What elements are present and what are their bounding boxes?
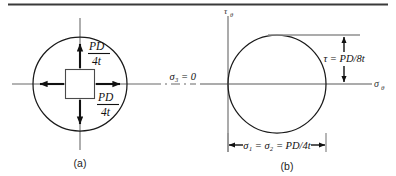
shear-dimension-label: τ = PD/8t: [323, 53, 365, 64]
stress-label-right-numerator: PD: [97, 91, 114, 103]
stress-element-square: [66, 70, 95, 99]
figure-svg: PD 4t PD 4t (a) τ θ: [0, 0, 396, 176]
sigma-axis-label-group: σ θ: [374, 78, 385, 92]
normal-dimension-label: σ₁ = σ₂ = PD/4t: [243, 140, 311, 151]
tau-axis-label: τ: [224, 6, 228, 16]
tau-axis-label-subscript: θ: [230, 11, 234, 18]
figure-container: PD 4t PD 4t (a) τ θ: [0, 0, 396, 176]
panel-a-caption: (a): [74, 157, 87, 169]
stress-label-top-numerator: PD: [88, 40, 105, 52]
sigma-axis-label-subscript: θ: [381, 84, 385, 92]
stress-label-top: PD 4t: [88, 40, 110, 67]
panel-a: PD 4t PD 4t (a): [12, 18, 196, 169]
stress-label-top-denominator: 4t: [92, 55, 102, 67]
panel-b: τ θ σ θ σ₃ = 0 τ = PD/8t σ₁ = σ₂ = PD/4t: [170, 6, 385, 172]
origin-stress-label: σ₃ = 0: [170, 71, 197, 82]
sigma-axis-label: σ: [374, 78, 380, 89]
panel-b-caption: (b): [281, 160, 294, 172]
stress-label-right-denominator: 4t: [101, 106, 111, 118]
tau-axis-label-group: τ θ: [224, 6, 234, 18]
